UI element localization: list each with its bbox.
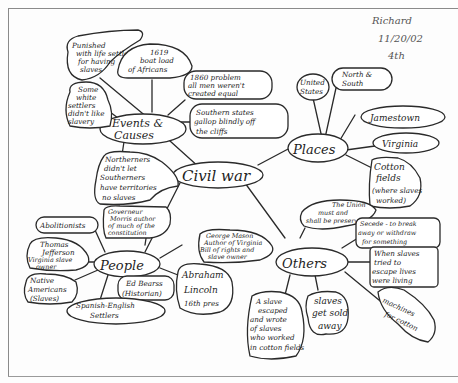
svg-text:Abraham: Abraham [181,270,224,280]
node-slaves-escape: When slaves tried to escape lives were l… [370,247,438,287]
hub-others: Others [276,248,348,276]
student-header: Richard 11/20/02 4th [371,15,423,61]
svg-text:must and: must and [318,209,348,217]
svg-text:away: away [318,321,342,331]
svg-text:The Union: The Union [332,201,366,209]
node-southern-states: Southern states gallop blindly off the c… [190,104,288,138]
svg-text:Southern states: Southern states [196,108,254,117]
svg-text:who worked: who worked [250,333,295,342]
svg-text:North &: North & [341,70,372,79]
svg-text:tried to: tried to [374,258,402,267]
node-slaves-sold-away: slaves get sold away [306,292,348,335]
svg-text:slavery: slavery [68,117,95,126]
node-northerners-territories: Northerners didn't let Southerners have … [95,152,179,205]
date: 11/20/02 [378,33,423,44]
node-virginia: Virginia [373,133,439,153]
svg-text:gallop blindly off: gallop blindly off [194,117,257,126]
svg-text:A slave: A slave [255,297,282,306]
node-spanish-english-settlers: Spanish-English Settlers [67,298,165,324]
hub-events-causes: Events & Causes [100,114,186,144]
svg-text:Others: Others [282,256,327,271]
svg-text:Lincoln: Lincoln [183,285,218,295]
node-united-states: United States [297,74,329,100]
worksheet-page: Richard 11/20/02 4th Civil war Events & … [0,0,458,383]
student-name: Richard [371,15,412,26]
svg-text:slaves: slaves [314,296,342,306]
svg-text:in cotton fields: in cotton fields [250,343,305,352]
node-native-americans: Native Americans (Slaves) [24,274,77,304]
svg-text:(Slaves): (Slaves) [30,294,59,303]
svg-text:created equal: created equal [188,89,238,98]
node-ed-bearss: Ed Bearss (Historian) [118,276,174,300]
svg-text:Spanish-English: Spanish-English [76,301,135,310]
svg-text:(where slaves: (where slaves [372,186,422,195]
svg-text:Places: Places [292,142,336,157]
svg-text:escape lives: escape lives [372,267,416,276]
node-abraham-lincoln: Abraham Lincoln 16th pres [176,264,232,315]
node-slave-escaped-wrote: A slave escaped and wrote of slaves who … [247,292,304,360]
svg-text:Abolitionists: Abolitionists [39,221,86,230]
node-george-mason: George Mason Author of Virginia Bill of … [199,230,273,263]
node-1860-problem: 1860 problem all men weren't created equ… [184,71,272,99]
svg-text:Native: Native [29,276,54,285]
svg-text:have territories: have territories [100,183,157,192]
svg-text:(Historian): (Historian) [122,289,162,298]
svg-text:Jamestown: Jamestown [368,113,420,123]
svg-text:owner: owner [36,263,57,271]
svg-text:Settlers: Settlers [90,311,119,320]
mind-map: Richard 11/20/02 4th Civil war Events & … [0,0,458,383]
center-label: Civil war [182,167,251,185]
svg-text:Ed Bearss: Ed Bearss [125,279,163,288]
svg-text:of slaves: of slaves [250,324,282,333]
svg-text:South: South [342,79,363,88]
svg-text:get sold: get sold [312,308,348,318]
svg-text:worked): worked) [376,196,406,205]
svg-text:no slaves: no slaves [102,193,136,202]
svg-text:16th pres: 16th pres [184,299,219,308]
svg-text:Virginia: Virginia [382,139,418,149]
svg-text:Cotton: Cotton [374,162,405,172]
hub-places: Places [288,134,348,162]
svg-text:escaped: escaped [258,306,288,315]
svg-text:were living: were living [372,276,413,285]
svg-text:the cliffs: the cliffs [196,127,228,136]
svg-text:of Africans: of Africans [128,65,168,74]
svg-text:for something: for something [361,238,407,246]
svg-text:States: States [300,87,323,96]
svg-text:Americans: Americans [27,285,67,294]
node-north-south: North & South [332,68,392,90]
svg-text:Northerners: Northerners [104,155,151,164]
hub-people: People [94,251,160,277]
node-cotton-machines: machines for cotton [378,287,435,342]
node-cotton-fields: Cotton fields (where slaves worked) [369,157,422,208]
svg-text:When slaves: When slaves [374,249,420,258]
svg-text:slave owner: slave owner [208,253,248,261]
node-governeur-morris: Governeur Morris author of much of the c… [103,206,170,238]
svg-text:and wrote: and wrote [250,315,287,324]
svg-text:away or withdraw: away or withdraw [358,229,417,237]
node-thomas-jefferson: Thomas Jefferson Virginia slave owner [27,238,89,271]
node-white-settlers-slavery: Some white settlers didn't like slavery [66,82,112,128]
center-node-civil-war: Civil war [173,162,263,188]
node-secede-definition: Secede - to break away or withdraw for s… [356,218,440,248]
svg-text:Secede - to break: Secede - to break [360,220,417,228]
svg-text:fields: fields [375,173,401,183]
svg-text:Southerners: Southerners [100,173,145,182]
svg-text:United: United [300,78,325,87]
svg-text:constitution: constitution [108,229,147,237]
svg-text:slaves: slaves [80,65,103,74]
svg-text:boat load: boat load [140,56,174,65]
svg-text:didn't let: didn't let [104,164,137,173]
node-abolitionists: Abolitionists [36,217,98,233]
node-jamestown: Jamestown [361,106,445,128]
svg-text:Causes: Causes [114,129,154,142]
svg-text:People: People [99,258,144,273]
class-period: 4th [387,50,405,61]
